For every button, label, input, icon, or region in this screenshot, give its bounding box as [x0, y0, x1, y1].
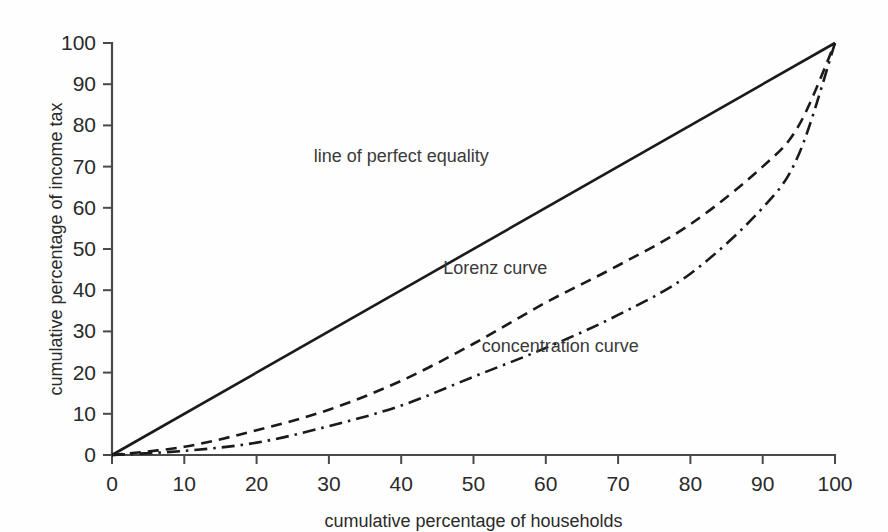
x-tick-label: 50 [462, 472, 485, 495]
x-tick-label: 70 [606, 472, 629, 495]
annotation-line-of-perfect-equality: line of perfect equality [314, 146, 489, 166]
x-axis-title: cumulative percentage of households [324, 511, 622, 531]
annotation-lorenz-curve: Lorenz curve [443, 258, 547, 278]
x-tick-label: 60 [534, 472, 557, 495]
series-line-line-of-perfect-equality [112, 43, 835, 455]
y-tick-label: 100 [61, 31, 96, 54]
x-tick-label: 0 [106, 472, 118, 495]
x-tick-label: 10 [173, 472, 196, 495]
y-tick-label: 90 [73, 72, 96, 95]
y-tick-label: 20 [73, 361, 96, 384]
y-tick-label: 10 [73, 402, 96, 425]
annotation-concentration-curve: concentration curve [482, 336, 639, 356]
x-tick-label: 40 [390, 472, 413, 495]
x-tick-label: 20 [245, 472, 268, 495]
x-tick-label: 90 [751, 472, 774, 495]
x-tick-label: 100 [817, 472, 852, 495]
y-tick-label: 60 [73, 196, 96, 219]
y-tick-label: 80 [73, 113, 96, 136]
plot-area: 0102030405060708090100010203040506070809… [0, 0, 888, 532]
y-tick-label: 40 [73, 278, 96, 301]
y-tick-label: 0 [84, 443, 96, 466]
y-tick-label: 50 [73, 237, 96, 260]
x-tick-label: 80 [679, 472, 702, 495]
y-tick-label: 70 [73, 155, 96, 178]
y-axis-title: cumulative percentage of income tax [46, 102, 66, 395]
x-tick-label: 30 [317, 472, 340, 495]
lorenz-concentration-curve-chart: 0102030405060708090100010203040506070809… [0, 0, 888, 532]
y-tick-label: 30 [73, 319, 96, 342]
